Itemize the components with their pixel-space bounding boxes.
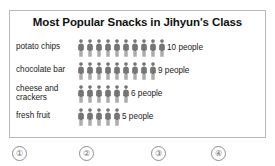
row-value-label: 9 people — [158, 66, 189, 75]
row-icon-group — [77, 62, 158, 81]
row-category-label: potato chips — [16, 42, 79, 51]
row-category-label: chocolate bar — [16, 65, 79, 74]
person-icon — [140, 62, 148, 80]
person-icon — [113, 85, 121, 103]
chart-title: Most Popular Snacks in Jihyun's Class — [10, 16, 265, 28]
answer-choice-4[interactable]: ④ — [211, 146, 226, 161]
row-category-label: fresh fruit — [16, 111, 79, 120]
person-icon — [131, 39, 139, 57]
person-icon — [95, 85, 103, 103]
answer-choice-3[interactable]: ③ — [151, 146, 166, 161]
person-icon — [86, 62, 94, 80]
person-icon — [86, 39, 94, 57]
row-icon-group — [77, 39, 167, 58]
answer-choice-1[interactable]: ① — [12, 146, 27, 161]
pictograph-chart: Most Popular Snacks in Jihyun's Class po… — [9, 10, 266, 138]
pictograph-row: chocolate bar9 people — [10, 60, 265, 83]
row-icon-group — [77, 85, 131, 104]
pictograph-row: fresh fruit5 people — [10, 106, 265, 129]
person-icon — [122, 85, 130, 103]
person-icon — [95, 108, 103, 126]
person-icon — [104, 62, 112, 80]
person-icon — [95, 39, 103, 57]
person-icon — [77, 62, 85, 80]
row-value-label: 6 people — [131, 89, 162, 98]
person-icon — [113, 39, 121, 57]
person-icon — [86, 108, 94, 126]
row-value-label: 10 people — [167, 43, 203, 52]
person-icon — [77, 39, 85, 57]
person-icon — [149, 39, 157, 57]
row-value-label: 5 people — [122, 112, 153, 121]
pictograph-row: cheese and crackers6 people — [10, 83, 265, 106]
person-icon — [122, 39, 130, 57]
row-icon-group — [77, 108, 122, 127]
row-category-label: cheese and crackers — [16, 84, 79, 102]
person-icon — [104, 39, 112, 57]
person-icon — [113, 62, 121, 80]
person-icon — [122, 62, 130, 80]
pictograph-row: potato chips10 people — [10, 37, 265, 60]
person-icon — [86, 85, 94, 103]
person-icon — [131, 62, 139, 80]
person-icon — [104, 85, 112, 103]
person-icon — [113, 108, 121, 126]
person-icon — [77, 108, 85, 126]
pictograph-rows: potato chips10 peoplechocolate bar9 peop… — [10, 37, 265, 129]
person-icon — [77, 85, 85, 103]
answer-choice-markers: ①②③④ — [0, 146, 275, 164]
person-icon — [149, 62, 157, 80]
answer-choice-2[interactable]: ② — [79, 146, 94, 161]
person-icon — [158, 39, 166, 57]
person-icon — [104, 108, 112, 126]
person-icon — [95, 62, 103, 80]
person-icon — [140, 39, 148, 57]
